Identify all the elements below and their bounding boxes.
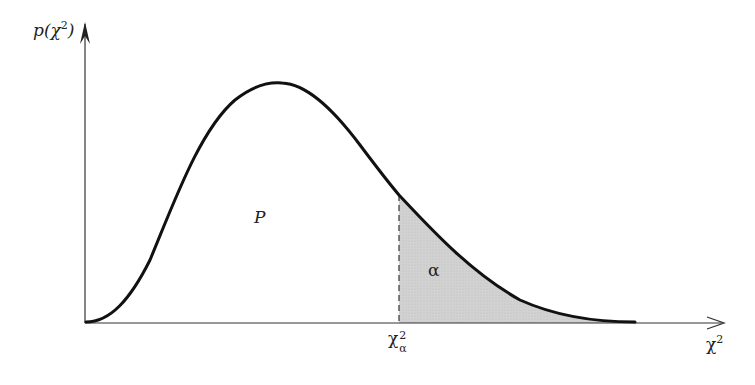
y-axis-label-text: p(χ [33,20,61,40]
y-axis-label-close: ) [68,20,75,40]
x-axis-label-text: χ [706,334,716,354]
critical-value-sup: 2 [399,330,406,341]
region-p-label: P [254,207,265,227]
x-axis-label: χ2 [706,333,723,354]
y-axis-label: p(χ2) [33,19,74,40]
critical-value-text: χ [388,328,398,348]
alpha-region [399,195,635,323]
chi-square-diagram [0,0,755,385]
region-alpha-label: α [428,260,439,280]
density-curve [86,83,635,322]
critical-value-sub: α [399,343,406,354]
x-axis-label-sup: 2 [716,333,723,346]
critical-value-label: χ 2 α [388,330,407,354]
y-axis-label-sup: 2 [61,19,68,32]
